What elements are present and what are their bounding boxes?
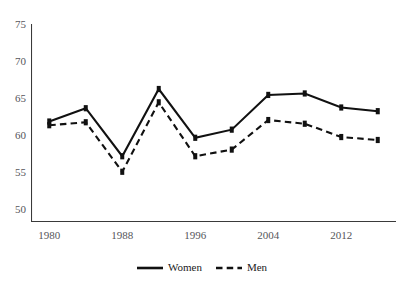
data-point-men-1984 <box>84 119 88 125</box>
y-tick-label-50: 50 <box>4 203 26 214</box>
plot-area <box>31 24 396 222</box>
data-point-men-2000 <box>230 147 234 153</box>
y-tick-label-55: 55 <box>4 166 26 177</box>
data-point-women-2012 <box>339 104 343 110</box>
data-point-women-1996 <box>193 135 197 141</box>
legend-label-women: Women <box>168 262 202 273</box>
y-tick-label-60: 60 <box>4 129 26 140</box>
data-point-women-1984 <box>84 105 88 111</box>
data-series-layer <box>47 86 380 175</box>
legend-label-men: Men <box>247 262 267 273</box>
chart-svg <box>31 24 396 222</box>
legend-entry-women[interactable]: Women <box>137 262 202 273</box>
data-point-men-1992 <box>157 99 161 105</box>
x-axis-tick-labels: 19801988199620042012 <box>31 230 396 246</box>
y-tick-label-65: 65 <box>4 92 26 103</box>
data-point-women-2004 <box>266 92 270 98</box>
chart-title <box>0 0 404 1</box>
data-point-women-2016 <box>376 108 380 114</box>
data-point-men-2008 <box>303 121 307 127</box>
legend-swatch-dashed-icon <box>216 264 242 272</box>
data-point-men-1996 <box>193 153 197 159</box>
data-point-women-1988 <box>120 153 124 159</box>
x-tick-label-1996: 1996 <box>184 230 206 241</box>
data-point-women-2008 <box>303 90 307 96</box>
y-tick-label-75: 75 <box>4 19 26 30</box>
series-line-men <box>49 102 378 171</box>
legend-swatch-solid-icon <box>137 264 163 272</box>
y-tick-label-70: 70 <box>4 55 26 66</box>
data-point-men-2012 <box>339 134 343 140</box>
data-point-men-1988 <box>120 169 124 175</box>
data-point-men-2016 <box>376 137 380 143</box>
series-line-women <box>49 89 378 156</box>
x-tick-label-2012: 2012 <box>330 230 352 241</box>
chart-legend: WomenMen <box>0 262 404 273</box>
data-point-men-1980 <box>47 122 51 128</box>
data-point-men-2004 <box>266 117 270 123</box>
data-point-women-1992 <box>157 86 161 92</box>
x-tick-label-1988: 1988 <box>111 230 133 241</box>
legend-entry-men[interactable]: Men <box>216 262 267 273</box>
chart-figure: 505560657075 19801988199620042012 WomenM… <box>0 0 404 284</box>
x-tick-label-2004: 2004 <box>257 230 279 241</box>
x-tick-label-1980: 1980 <box>38 230 60 241</box>
y-axis-tick-labels: 505560657075 <box>0 24 26 222</box>
data-point-women-2000 <box>230 127 234 133</box>
